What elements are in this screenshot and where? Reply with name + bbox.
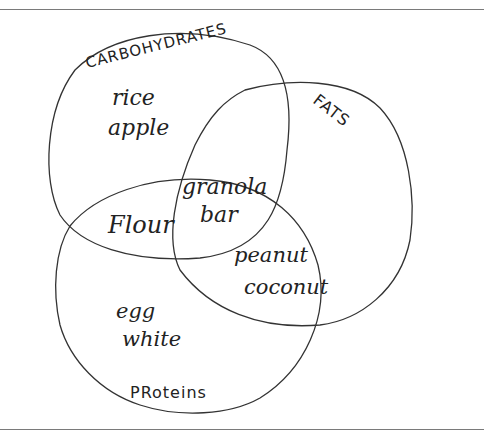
item-granola: granola [182, 174, 267, 199]
item-peanut: peanut [234, 243, 308, 267]
item-coconut: coconut [244, 275, 329, 299]
item-bar: bar [200, 202, 239, 227]
item-flour: Flour [107, 211, 175, 239]
item-white: white [122, 327, 181, 351]
item-egg: egg [116, 299, 155, 323]
carbohydrates-label: CARBOHYDRATES [84, 19, 229, 72]
venn-diagram: CARBOHYDRATES FATS PRoteins rice apple F… [0, 0, 484, 438]
fats-label: FATS [310, 90, 354, 130]
item-rice: rice [112, 85, 155, 110]
item-apple: apple [108, 115, 169, 140]
proteins-label: PRoteins [130, 383, 207, 402]
